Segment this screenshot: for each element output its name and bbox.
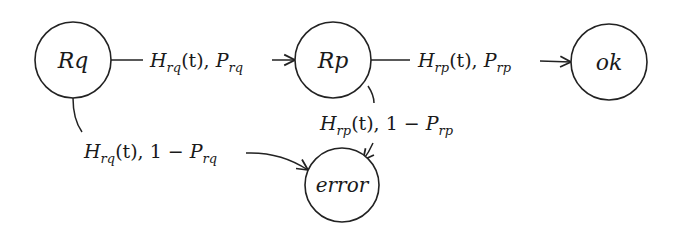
edge-rq-error-line-b	[246, 153, 308, 170]
edge-label-rq-rp: Hrq(t), Prq	[149, 49, 243, 75]
edge-label-rp-ok: Hrp(t), Prp	[417, 49, 512, 75]
edge-label-rp-error: Hrp(t), 1 − Prp	[319, 112, 454, 138]
edge-rq-error-line-a	[73, 98, 82, 132]
node-error-label: error	[316, 173, 370, 197]
state-diagram: Rq Rp ok error Hrq(t), Prq Hrp(t), Prp H…	[0, 0, 680, 248]
node-error: error	[305, 148, 379, 222]
node-rp-label: Rp	[317, 48, 349, 73]
node-rp: Rp	[295, 22, 371, 98]
edge-rp-error-line-a	[368, 86, 374, 103]
node-ok: ok	[571, 24, 647, 100]
node-ok-label: ok	[596, 50, 623, 75]
edge-rp-ok-line-b	[540, 61, 571, 62]
node-rq: Rq	[35, 22, 111, 98]
edge-label-rq-error: Hrq(t), 1 − Prq	[83, 140, 217, 166]
node-rq-label: Rq	[57, 48, 89, 73]
